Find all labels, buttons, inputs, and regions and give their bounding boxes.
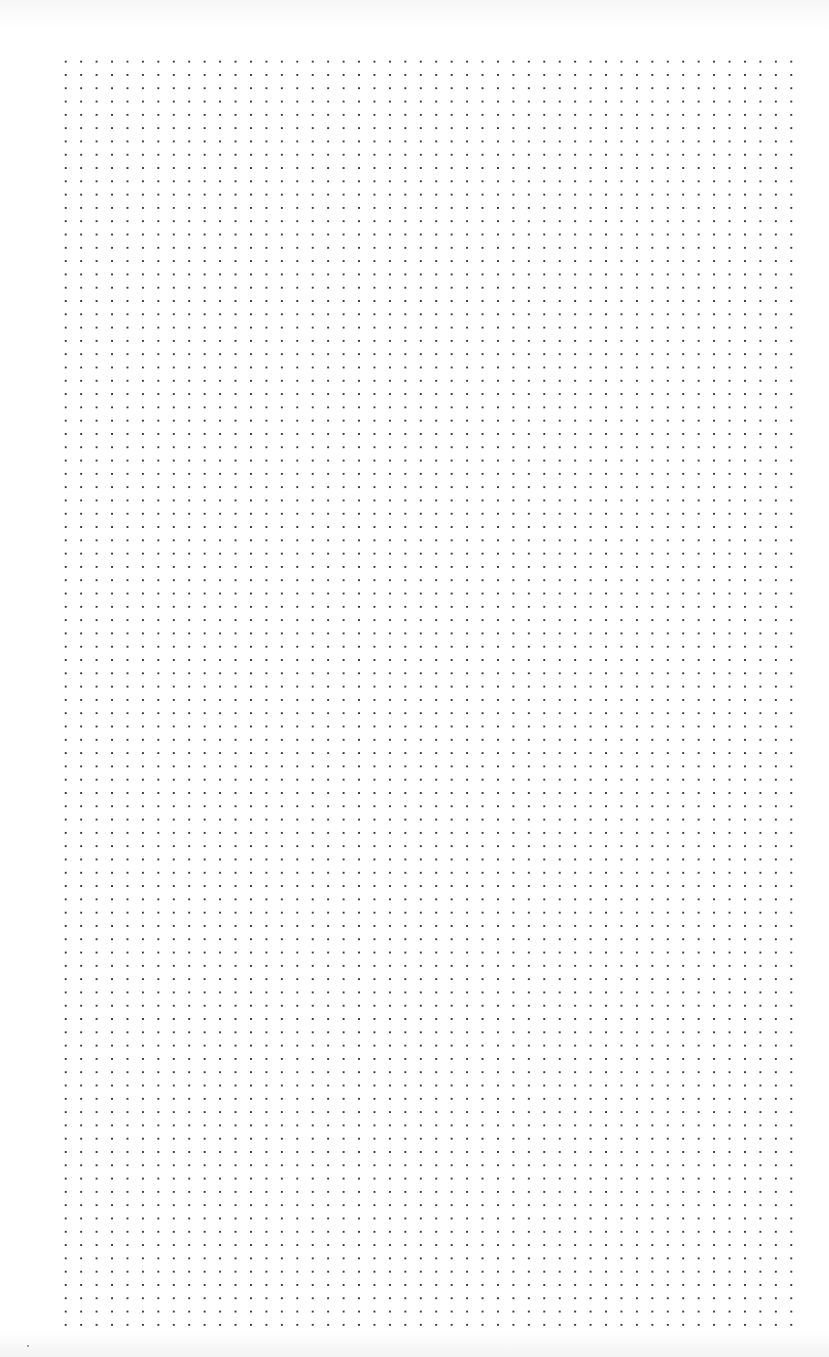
corner-mark [27,1345,29,1347]
dot-grid [58,55,799,1326]
dot-grid-page [0,0,829,1357]
